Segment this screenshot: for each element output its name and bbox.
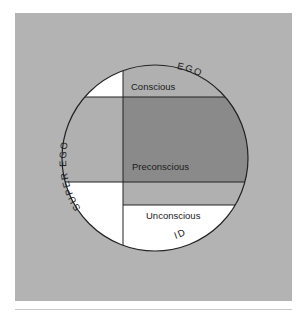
label-preconscious: Preconscious bbox=[132, 161, 189, 172]
psyche-diagram: Conscious Preconscious Unconscious EGO S… bbox=[0, 0, 305, 315]
label-unconscious: Unconscious bbox=[146, 210, 201, 221]
label-conscious: Conscious bbox=[131, 81, 176, 92]
superego-top-white bbox=[60, 60, 123, 97]
